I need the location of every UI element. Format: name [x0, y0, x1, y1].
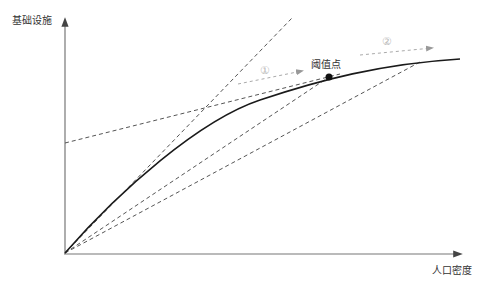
threshold-tangent-line	[65, 74, 340, 143]
y-axis-label: 基础设施	[12, 16, 52, 26]
x-axis-label: 人口密度	[432, 266, 472, 276]
threshold-label: 阈值点	[311, 60, 341, 70]
arrow-1	[238, 71, 302, 84]
threshold-point	[326, 74, 333, 81]
origin-tangent-line	[65, 18, 292, 253]
arrow-1-label: ①	[260, 65, 270, 76]
secant-to-threshold-line	[65, 77, 329, 253]
diagram-canvas	[0, 0, 481, 286]
secant-beyond-threshold-line	[65, 62, 420, 253]
arrow-2	[360, 48, 432, 55]
arrow-2-label: ②	[382, 36, 392, 47]
infrastructure-curve	[65, 59, 460, 253]
